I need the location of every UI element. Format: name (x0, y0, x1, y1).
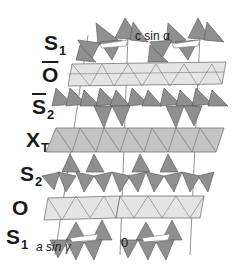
xt-interlayer-sheet (46, 128, 224, 152)
layer-label-xt: XT (26, 129, 49, 150)
tetrahedral-layer-s2 (42, 154, 214, 192)
tetrahedral-layer-s2-bar (52, 88, 228, 128)
a-axis-label: a sin γ (36, 241, 71, 253)
layer-label-o-bar: O (42, 64, 58, 85)
layer-label-s1-top: S1 (44, 32, 66, 53)
octahedral-layer-o (44, 196, 204, 220)
c-axis-label: c sin α (135, 30, 170, 42)
layer-label-s1-bottom: S1 (6, 226, 28, 247)
tetrahedral-layer-s1-bottom-links (70, 234, 170, 242)
layer-label-o: O (12, 197, 28, 218)
origin-label: 0 (121, 236, 128, 249)
octahedral-layer-o-bar (68, 62, 226, 86)
layer-label-s2-bar: S2 (32, 96, 54, 117)
layer-label-s2: S2 (20, 163, 42, 184)
